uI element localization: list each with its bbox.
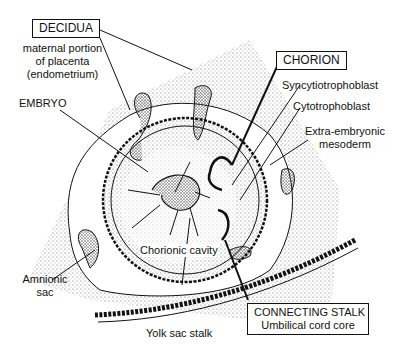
decidua-line-1: maternal portion <box>20 42 105 55</box>
extra-embryonic-mesoderm-label: Extra-embryonic mesoderm <box>300 125 390 151</box>
decidua-line-3: (endometrium) <box>20 68 105 81</box>
extra-embryonic-line-1: Extra-embryonic <box>300 125 390 138</box>
chorion-label: CHORION <box>276 51 347 70</box>
chorionic-cavity-label: Chorionic cavity <box>140 244 218 257</box>
extra-embryonic-line-2: mesoderm <box>300 138 390 151</box>
connecting-stalk-title: CONNECTING STALK <box>254 306 362 319</box>
connecting-stalk-label: CONNECTING STALK Umbilical cord core <box>247 303 369 335</box>
amnionic-sac-label: Amnionic sac <box>20 273 70 299</box>
amnionic-line-1: Amnionic <box>20 273 70 286</box>
decidua-line-2: of placenta <box>20 55 105 68</box>
decidua-description: maternal portion of placenta (endometriu… <box>20 42 105 81</box>
connecting-stalk-subtitle: Umbilical cord core <box>254 319 362 332</box>
syncytiotrophoblast-label: Syncytiotrophoblast <box>282 79 378 92</box>
embryo-label: EMBRYO <box>19 97 66 110</box>
amnionic-line-2: sac <box>20 286 70 299</box>
yolk-sac-stalk-label: Yolk sac stalk <box>146 327 212 340</box>
cytotrophoblast-label: Cytotrophoblast <box>293 100 370 113</box>
decidua-label: DECIDUA <box>32 19 100 38</box>
